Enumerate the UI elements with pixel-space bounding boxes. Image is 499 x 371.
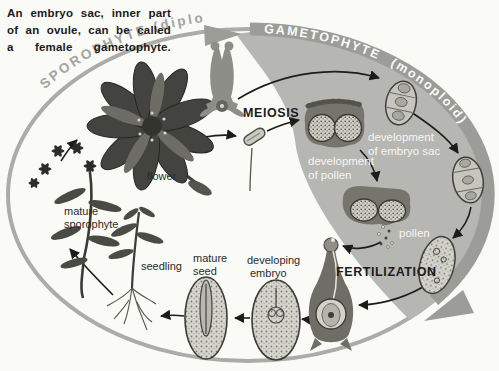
anther-cross-section-illustration [305, 101, 365, 148]
svg-text:of pollen: of pollen [308, 169, 351, 181]
svg-text:development: development [308, 155, 375, 167]
meiosis-label: MEIOSIS [243, 106, 299, 120]
caption-line: of an ovule, can be called [7, 22, 171, 39]
svg-text:of embryo sac: of embryo sac [368, 145, 440, 157]
arrow-seedling-to-sporophyte [70, 249, 113, 295]
svg-text:development: development [368, 131, 435, 143]
svg-text:seed: seed [193, 265, 217, 277]
svg-text:mature: mature [193, 252, 227, 264]
flower-label: flower [147, 170, 177, 182]
seedling-label: seedling [141, 260, 182, 272]
developing-embryo-seed-illustration [252, 280, 300, 360]
pollen-label: pollen [399, 227, 430, 239]
svg-text:developing: developing [247, 254, 300, 266]
carpel-fertilization-illustration [309, 238, 353, 351]
caption: An embryo sac, inner part of an ovule, c… [7, 5, 171, 56]
caption-line: a female gametophyte. [7, 39, 171, 56]
sporophyte-flowers [29, 141, 97, 188]
caption-line: An embryo sac, inner part [7, 5, 171, 22]
stamen-illustration [242, 126, 267, 191]
mature-seed-illustration [185, 277, 227, 359]
seedling-roots [107, 288, 156, 330]
fertilization-label: FERTILIZATION [336, 265, 437, 279]
mature-seed-label: mature seed [193, 252, 227, 277]
svg-text:sporophyte: sporophyte [64, 218, 118, 230]
plant-life-cycle-diagram: SPOROPHYTE (diploid) GAMETOPHYTE (monopl… [0, 0, 499, 371]
arrow-seed-to-seedling [161, 315, 184, 316]
developing-embryo-label: developing embryo [247, 254, 300, 279]
svg-text:embryo: embryo [250, 267, 287, 279]
svg-text:mature: mature [64, 205, 98, 217]
